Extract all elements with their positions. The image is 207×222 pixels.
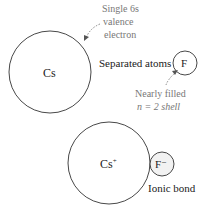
cs-ion-label: Cs+	[100, 157, 117, 171]
ionic-bond-diagram: Cs F Separated atoms Single 6s valence e…	[0, 0, 207, 222]
f-atom-label: F	[181, 57, 187, 69]
valence-note-line-2: valence	[103, 16, 134, 27]
shell-note-line-2: n = 2 shell	[137, 101, 180, 112]
ionic-bond-caption: Ionic bond	[148, 182, 196, 194]
ionic-bond-group: Cs+ F− Ionic bond	[68, 122, 196, 204]
shell-note-line-1: Nearly filled	[135, 88, 186, 99]
separated-atoms-caption: Separated atoms	[99, 57, 171, 69]
valence-note-line-3: electron	[104, 29, 136, 40]
valence-arrow-icon	[86, 24, 100, 38]
valence-note-line-1: Single 6s	[102, 3, 139, 14]
cs-atom-label: Cs	[43, 66, 56, 80]
separated-atoms-group: Cs F Separated atoms Single 6s valence e…	[9, 3, 197, 113]
